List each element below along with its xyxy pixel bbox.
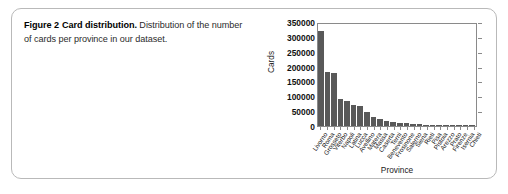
bar: [364, 112, 371, 126]
bar: [344, 101, 351, 126]
bar: [404, 123, 411, 126]
axis-tick-mark: [347, 127, 348, 130]
bar: [318, 31, 325, 126]
y-axis-tick-label: 350000: [269, 19, 315, 28]
axis-tick-mark: [427, 127, 428, 130]
y-axis-tick-label: 200000: [269, 63, 315, 72]
axis-tick-mark: [478, 97, 482, 98]
axis-tick-mark: [478, 112, 482, 113]
axis-tick-mark: [374, 127, 375, 130]
axis-tick-mark: [400, 127, 401, 130]
axis-tick-mark: [467, 127, 468, 130]
axis-tick-mark: [407, 127, 408, 130]
axis-tick-mark: [327, 127, 328, 130]
bar: [371, 117, 378, 126]
axis-tick-mark: [340, 127, 341, 130]
y-axis-tick-label: 300000: [269, 33, 315, 42]
y-axis-tick-labels: 3500003000002500002000001500001000005000…: [269, 23, 315, 127]
y-axis-tick-label: 0: [269, 123, 315, 132]
axis-tick-mark: [440, 127, 441, 130]
axis-tick-mark: [447, 127, 448, 130]
axis-tick-mark: [460, 127, 461, 130]
y-axis-tick-label: 50000: [269, 108, 315, 117]
bar: [384, 121, 391, 126]
axis-tick-mark: [420, 127, 421, 130]
bar: [331, 73, 338, 126]
bar: [469, 125, 476, 126]
axis-tick-mark: [334, 127, 335, 130]
y-axis-tick-label: 250000: [269, 48, 315, 57]
figure-panel: Figure 2Card distribution. Distribution …: [11, 8, 497, 179]
bar: [463, 125, 470, 126]
bar: [390, 122, 397, 126]
figure-caption-lead: Card distribution.: [62, 20, 137, 30]
axis-tick-mark: [354, 127, 355, 130]
axis-tick-mark: [454, 127, 455, 130]
axis-tick-mark: [478, 53, 482, 54]
axis-tick-mark: [367, 127, 368, 130]
axis-tick-mark: [478, 68, 482, 69]
figure-caption: Figure 2Card distribution. Distribution …: [24, 19, 246, 46]
axis-tick-mark: [478, 82, 482, 83]
bar: [377, 119, 384, 126]
bar: [325, 72, 332, 126]
y-axis-tick-label: 150000: [269, 78, 315, 87]
bar: [423, 125, 430, 126]
bar: [410, 124, 417, 126]
axis-tick-mark: [474, 127, 475, 130]
bar: [450, 125, 457, 126]
x-axis-tick-labels: LivornoRomaGrossetoViterboNapoliLatinaLu…: [317, 131, 477, 165]
axis-tick-mark: [360, 127, 361, 130]
bar: [397, 123, 404, 126]
bar: [430, 125, 437, 126]
bar: [351, 105, 358, 126]
bar-series: [318, 24, 476, 126]
axis-tick-mark: [478, 38, 482, 39]
axis-tick-mark: [387, 127, 388, 130]
bar: [456, 125, 463, 126]
plot-area: [317, 23, 477, 127]
y-axis-tick-label: 100000: [269, 93, 315, 102]
axis-tick-mark: [380, 127, 381, 130]
x-axis-title: Province: [317, 165, 477, 175]
figure-number: Figure 2: [24, 20, 59, 30]
axis-tick-mark: [478, 23, 482, 24]
axis-tick-mark: [434, 127, 435, 130]
axis-tick-mark: [394, 127, 395, 130]
axis-tick-mark: [414, 127, 415, 130]
bar: [417, 124, 424, 126]
bar: [443, 125, 450, 126]
right-axis-ticks: [476, 23, 482, 127]
bar: [357, 106, 364, 126]
axis-tick-mark: [320, 127, 321, 130]
bar: [436, 125, 443, 126]
bar: [338, 99, 345, 126]
bar-chart: Cards 3500003000002500002000001500001000…: [255, 13, 495, 176]
